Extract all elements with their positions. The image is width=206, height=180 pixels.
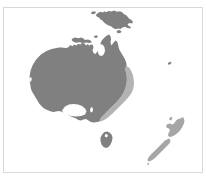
region-stewart-island bbox=[147, 163, 149, 165]
region-new-caledonia bbox=[168, 62, 172, 65]
region-new-zealand-south-island bbox=[148, 133, 174, 162]
region-indonesian-islands bbox=[72, 35, 99, 43]
region-tasmania bbox=[101, 132, 113, 149]
oceania-map-svg bbox=[0, 0, 206, 180]
region-new-zealand-north-island bbox=[166, 117, 185, 138]
region-papua-new-guinea bbox=[91, 11, 133, 34]
oceania-map-figure: Oceania bbox=[0, 0, 206, 180]
